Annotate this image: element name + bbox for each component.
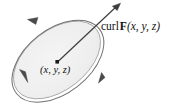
figure-canvas <box>0 0 169 111</box>
point-coordinates-text: (x, y, z) <box>40 64 70 75</box>
point-coordinates-label: (x, y, z) <box>40 65 70 76</box>
disk-group <box>0 6 115 111</box>
circulation-arrowhead-top <box>28 18 39 25</box>
curl-operator-text: curl <box>101 20 119 32</box>
disk-surface <box>0 6 115 111</box>
vector-field-symbol: F <box>120 20 127 32</box>
curl-arguments-text: (x, y, z) <box>127 20 160 32</box>
curl-diagram-figure: curl F(x, y, z) (x, y, z) <box>0 0 169 111</box>
curl-vector-label: curl F(x, y, z) <box>101 21 160 33</box>
circulation-arrowhead-right <box>99 73 106 84</box>
